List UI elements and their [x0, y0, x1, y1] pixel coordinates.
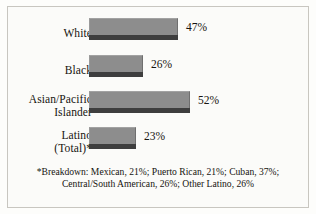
category-label-black: Black — [0, 64, 92, 77]
bar-base-shadow — [89, 144, 136, 149]
bar-white[interactable] — [89, 18, 178, 40]
footnote-line-1: *Breakdown: Mexican, 21%; Puerto Rican, … — [0, 166, 316, 178]
bar-face — [89, 91, 190, 108]
bar-face — [89, 55, 143, 72]
bar-latino-total[interactable] — [89, 127, 136, 149]
bar-face — [89, 18, 178, 35]
footnote-line-2: Central/South American, 26%; Other Latin… — [0, 178, 316, 190]
value-label-black: 26% — [151, 58, 172, 71]
bar-black[interactable] — [89, 55, 143, 77]
category-label-white: White — [0, 27, 92, 40]
bar-base-shadow — [89, 35, 178, 40]
chart-footnote: *Breakdown: Mexican, 21%; Puerto Rican, … — [0, 166, 316, 189]
category-label-latino-total: Latino (Total)* — [0, 129, 92, 154]
value-label-white: 47% — [186, 21, 207, 34]
chart-figure: White 47% Black 26% Asian/Pacific Island… — [0, 0, 316, 214]
bar-asian-pacific-islander[interactable] — [89, 91, 190, 113]
value-label-latino-total: 23% — [144, 130, 165, 143]
bar-base-shadow — [89, 108, 190, 113]
bar-chart-plot-area: White 47% Black 26% Asian/Pacific Island… — [0, 12, 316, 152]
bar-face — [89, 127, 136, 144]
bar-base-shadow — [89, 72, 143, 77]
value-label-asian-pacific-islander: 52% — [198, 94, 219, 107]
category-label-asian-pacific-islander: Asian/Pacific Islander — [0, 93, 92, 118]
